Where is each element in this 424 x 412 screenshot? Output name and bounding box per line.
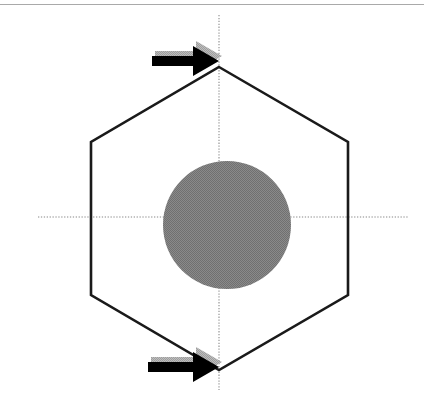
arrow-bottom-group	[148, 347, 222, 382]
hexagon-circle-arrows-diagram	[0, 0, 424, 412]
inscribed-circle	[163, 161, 291, 289]
inscribed-circle-group	[163, 161, 291, 289]
figure-canvas	[0, 0, 424, 412]
